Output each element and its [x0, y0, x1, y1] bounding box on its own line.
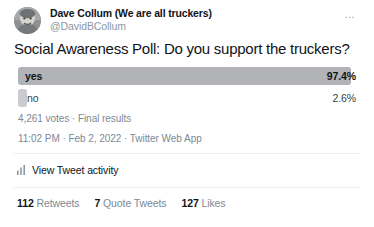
poll: yes 97.4% no 2.6% 4,261 votes · Final re…	[0, 58, 374, 124]
author-handle[interactable]: @DavidBCollum	[50, 20, 344, 32]
tweet-card: Dave Collum (We are all truckers) @David…	[0, 0, 374, 227]
poll-results-meta: 4,261 votes · Final results	[18, 113, 360, 124]
author-display-name[interactable]: Dave Collum (We are all truckers)	[50, 7, 344, 19]
poll-option-row[interactable]: no 2.6%	[18, 89, 360, 107]
poll-option-label: no	[18, 92, 38, 104]
stat-likes-label: Likes	[202, 197, 226, 209]
poll-bar-fill	[18, 67, 351, 85]
stat-likes[interactable]: 127 Likes	[181, 197, 225, 209]
poll-option-percent: 97.4%	[327, 67, 356, 85]
stat-likes-count: 127	[181, 197, 198, 209]
poll-option-percent: 2.6%	[332, 89, 356, 107]
stat-retweets-label: Retweets	[36, 197, 79, 209]
stat-retweets[interactable]: 112 Retweets	[17, 197, 79, 209]
stat-quote-tweets[interactable]: 7 Quote Tweets	[94, 197, 166, 209]
poll-option-label: yes	[18, 70, 42, 82]
avatar[interactable]	[14, 7, 41, 34]
tweet-text: Social Awareness Poll: Do you support th…	[0, 32, 374, 58]
view-tweet-activity-row[interactable]: View Tweet activity	[0, 154, 374, 178]
poll-option-row[interactable]: yes 97.4%	[18, 67, 360, 85]
stat-quote-tweets-label: Quote Tweets	[103, 197, 166, 209]
tweet-stats-row: 112 Retweets 7 Quote Tweets 127 Likes	[0, 188, 374, 209]
more-options-icon[interactable]: …	[344, 9, 356, 19]
stat-retweets-count: 112	[17, 197, 34, 209]
author-block: Dave Collum (We are all truckers) @David…	[50, 6, 344, 33]
view-tweet-activity-label: View Tweet activity	[32, 164, 118, 176]
bar-chart-icon	[17, 165, 26, 175]
tweet-header: Dave Collum (We are all truckers) @David…	[0, 0, 374, 32]
stat-quote-tweets-count: 7	[94, 197, 100, 209]
tweet-timestamp: 11:02 PM · Feb 2, 2022 · Twitter Web App	[0, 124, 374, 144]
